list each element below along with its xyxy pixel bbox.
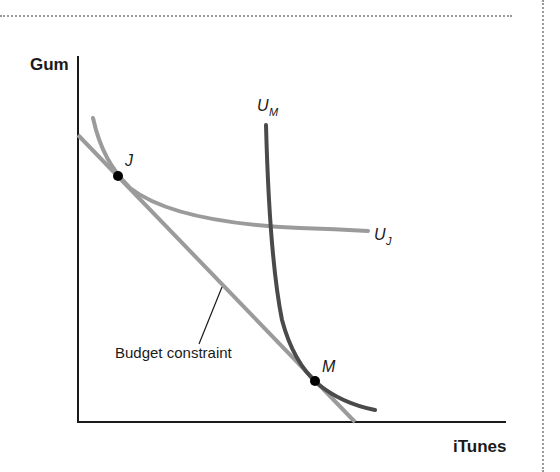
curve-label-uj-sub: J	[385, 235, 392, 247]
curve-label-um-main: U	[257, 97, 269, 114]
curve-label-uj: U J	[374, 226, 392, 247]
point-j	[113, 171, 123, 181]
point-m-label: M	[322, 358, 336, 375]
indifference-curve-um	[266, 125, 375, 410]
point-j-label: J	[124, 152, 134, 169]
point-m	[310, 376, 320, 386]
indifference-curve-diagram: Gum iTunes Budget constraint J M U M U J	[0, 0, 560, 472]
axes	[77, 56, 506, 423]
indifference-curve-uj	[93, 118, 368, 231]
curve-label-um-sub: M	[269, 106, 279, 118]
y-axis-label: Gum	[30, 55, 69, 74]
budget-constraint-leader-line	[199, 287, 222, 344]
budget-constraint-label: Budget constraint	[115, 344, 233, 361]
curve-label-uj-main: U	[374, 226, 386, 243]
curve-label-um: U M	[257, 97, 279, 118]
x-axis-label: iTunes	[453, 437, 507, 456]
